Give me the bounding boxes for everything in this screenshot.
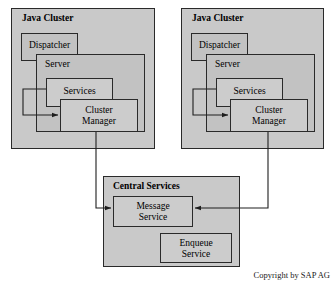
wire-left-services-to-cluster-manager [23, 89, 58, 115]
diagram-canvas: Java Cluster Dispatcher Server Services … [0, 0, 336, 283]
wire-right-services-to-cluster-manager [193, 89, 228, 115]
connector-layer [0, 0, 336, 283]
wire-left-cluster-manager-to-message-service [96, 132, 111, 208]
wire-right-cluster-manager-to-message-service [195, 132, 268, 208]
copyright-notice: Copyright by SAP AG [254, 270, 330, 280]
